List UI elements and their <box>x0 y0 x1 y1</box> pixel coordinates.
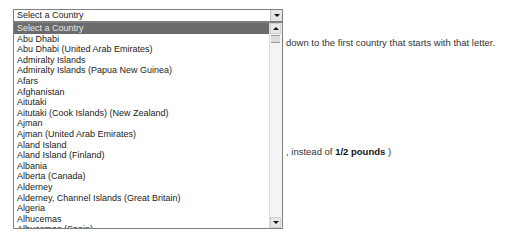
scroll-up-icon <box>273 27 279 30</box>
option-aitutaki[interactable]: Aitutaki <box>14 97 270 108</box>
weight-note-suffix: ) <box>385 146 391 157</box>
option-aland-island-finland[interactable]: Aland Island (Finland) <box>14 150 270 161</box>
scroll-down-button[interactable] <box>270 217 281 228</box>
option-algeria[interactable]: Algeria <box>14 203 270 214</box>
option-abu-dhabi[interactable]: Abu Dhabi <box>14 34 270 45</box>
option-alhucemas-spain[interactable]: Alhucemas (Spain) <box>14 224 270 229</box>
option-ajman[interactable]: Ajman <box>14 118 270 129</box>
option-albania[interactable]: Albania <box>14 161 270 172</box>
weight-note-bold: 1/2 pounds <box>335 146 385 157</box>
option-aitutaki-nz[interactable]: Aitutaki (Cook Islands) (New Zealand) <box>14 108 270 119</box>
weight-note-text: , instead of 1/2 pounds ) <box>286 146 391 157</box>
option-aland-island[interactable]: Aland Island <box>14 140 270 151</box>
scroll-down-icon <box>273 221 279 224</box>
scroll-up-button[interactable] <box>270 23 281 34</box>
dropdown-arrow-button[interactable] <box>270 10 282 21</box>
dropdown-scrollbar[interactable] <box>269 23 282 228</box>
option-afars[interactable]: Afars <box>14 76 270 87</box>
country-select[interactable]: Select a Country <box>13 9 283 22</box>
weight-note-prefix: , instead of <box>286 146 335 157</box>
option-admiralty-islands-png[interactable]: Admiralty Islands (Papua New Guinea) <box>14 65 270 76</box>
option-alberta-canada[interactable]: Alberta (Canada) <box>14 171 270 182</box>
country-dropdown-list[interactable]: Select a Country Abu Dhabi Abu Dhabi (Un… <box>13 22 283 229</box>
option-admiralty-islands[interactable]: Admiralty Islands <box>14 55 270 66</box>
option-abu-dhabi-uae[interactable]: Abu Dhabi (United Arab Emirates) <box>14 44 270 55</box>
option-ajman-uae[interactable]: Ajman (United Arab Emirates) <box>14 129 270 140</box>
instruction-text: down to the first country that starts wi… <box>286 37 495 48</box>
option-select-a-country[interactable]: Select a Country <box>14 23 270 34</box>
option-alderney[interactable]: Alderney <box>14 182 270 193</box>
option-afghanistan[interactable]: Afghanistan <box>14 87 270 98</box>
country-select-value: Select a Country <box>17 10 84 20</box>
scroll-thumb[interactable] <box>271 35 280 43</box>
country-options: Select a Country Abu Dhabi Abu Dhabi (Un… <box>14 23 270 229</box>
option-alhucemas[interactable]: Alhucemas <box>14 214 270 225</box>
chevron-down-icon <box>274 14 280 17</box>
option-alderney-channel-islands[interactable]: Alderney, Channel Islands (Great Britain… <box>14 193 270 204</box>
